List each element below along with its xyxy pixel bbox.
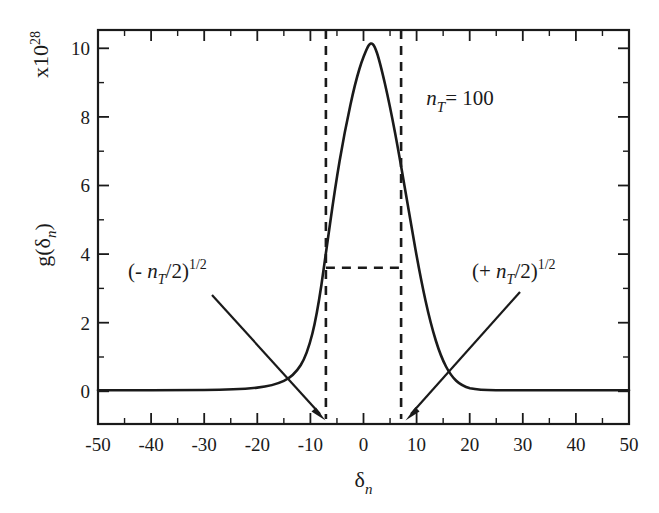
y-tick-label-0: 0 — [81, 381, 91, 402]
annotation-right-label: (+ nT/2)1/2 — [472, 257, 556, 287]
y-axis-exponent-label: x1028 — [28, 31, 53, 78]
svg-text:g(δn): g(δn) — [30, 223, 59, 267]
x-tick-label-20: 20 — [460, 434, 479, 455]
x-tick-label-10: 10 — [407, 434, 426, 455]
x-tick-label-40: 40 — [566, 434, 585, 455]
x-tick-label-m30: -30 — [192, 434, 217, 455]
y-exponent-prefix: x10 — [28, 45, 53, 78]
x-axis-title: δn — [355, 467, 373, 497]
y-exponent-power: 28 — [28, 31, 43, 45]
y-tick-label-4: 4 — [81, 244, 91, 265]
x-tick-label-0: 0 — [359, 434, 369, 455]
y-axis-title: g(δn) — [30, 223, 59, 267]
x-tick-label-m50: -50 — [85, 434, 110, 455]
annot-left-close: /2) — [166, 259, 189, 283]
annot-left-exp: 1/2 — [189, 257, 207, 272]
x-tick-label-50: 50 — [620, 434, 639, 455]
condition-value: = 100 — [445, 86, 494, 110]
annotation-left-arrow — [212, 295, 326, 421]
annot-right-sym: n — [496, 259, 507, 283]
annot-left-open: (- — [128, 259, 147, 283]
y-axis-ticks-right — [618, 48, 629, 391]
annotation-right-arrow — [406, 292, 521, 421]
x-tick-label-m20: -20 — [245, 434, 270, 455]
data-curve — [98, 44, 629, 391]
condition-symbol: n — [426, 86, 437, 110]
x-axis-title-sub: n — [365, 481, 373, 497]
annot-right-open: (+ — [472, 259, 496, 283]
x-tick-label-m10: -10 — [298, 434, 323, 455]
y-tick-label-8: 8 — [81, 107, 91, 128]
y-axis-title-close: ) — [30, 223, 55, 230]
chart-figure: 10 8 6 4 2 0 -50 -40 -30 -20 -10 0 10 20… — [0, 0, 659, 513]
condition-label: nT= 100 — [426, 86, 493, 115]
y-tick-label-10: 10 — [71, 38, 90, 59]
x-tick-label-30: 30 — [513, 434, 532, 455]
annotation-left-label: (- nT/2)1/2 — [128, 257, 207, 287]
svg-text:x1028: x1028 — [28, 31, 53, 78]
x-tick-label-m40: -40 — [138, 434, 163, 455]
y-tick-label-6: 6 — [81, 175, 91, 196]
annot-right-exp: 1/2 — [538, 257, 556, 272]
y-tick-labels: 10 8 6 4 2 0 — [71, 38, 91, 402]
x-axis-top-ticks — [125, 30, 603, 41]
y-axis-ticks-left — [98, 48, 109, 391]
annot-left-sym: n — [147, 259, 158, 283]
x-tick-labels: -50 -40 -30 -20 -10 0 10 20 30 40 50 — [85, 434, 638, 455]
y-axis-title-main: g(δ — [30, 238, 55, 267]
y-axis-title-sub: n — [43, 231, 59, 239]
annot-right-close: /2) — [514, 259, 537, 283]
y-tick-label-2: 2 — [81, 313, 91, 334]
plot-frame — [98, 30, 629, 424]
x-axis-title-main: δ — [355, 467, 365, 492]
chart-svg: 10 8 6 4 2 0 -50 -40 -30 -20 -10 0 10 20… — [0, 0, 659, 513]
